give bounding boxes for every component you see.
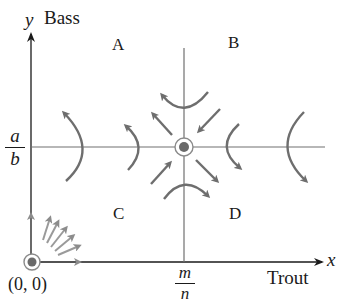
fraction-denominator-b: b xyxy=(5,149,25,168)
origin-arrow-fan-5 xyxy=(58,246,79,255)
arc-arrow-left-inner xyxy=(126,126,139,170)
region-label-a: A xyxy=(112,36,124,53)
origin-label: (0, 0) xyxy=(8,275,47,293)
y-axis-label: Bass xyxy=(44,8,80,27)
region-label-c: C xyxy=(113,205,124,222)
origin-arrows xyxy=(31,215,79,262)
x-axis-variable: x xyxy=(327,250,335,269)
region-label-b: B xyxy=(228,34,239,51)
region-label-d: D xyxy=(229,205,241,222)
y-equilibrium-fraction: a b xyxy=(5,126,25,168)
nullclines xyxy=(31,48,325,262)
arrow-out-lower-right xyxy=(196,160,217,181)
equilibrium-point-origin xyxy=(24,254,40,270)
arc-arrow-top xyxy=(162,92,208,108)
phase-plane-diagram: y Bass x Trout A B C D a b m n (0, 0) xyxy=(0,0,348,303)
arrow-out-upper-left xyxy=(153,114,172,135)
origin-arrow-fan-1 xyxy=(43,218,50,240)
x-equilibrium-fraction: m n xyxy=(175,264,195,302)
arc-arrow-bottom xyxy=(164,185,208,199)
fraction-numerator-a: a xyxy=(5,126,25,145)
fraction-denominator-n: n xyxy=(175,285,195,302)
arc-arrow-right-inner xyxy=(227,124,240,168)
arrow-in-lower-left xyxy=(151,163,170,184)
arrow-in-upper-right xyxy=(199,109,220,131)
diagram-canvas xyxy=(0,0,348,303)
fraction-numerator-m: m xyxy=(175,264,195,281)
x-axis-label: Trout xyxy=(267,268,309,287)
y-axis-variable: y xyxy=(25,10,33,29)
equilibrium-point-coexistence xyxy=(175,138,193,156)
